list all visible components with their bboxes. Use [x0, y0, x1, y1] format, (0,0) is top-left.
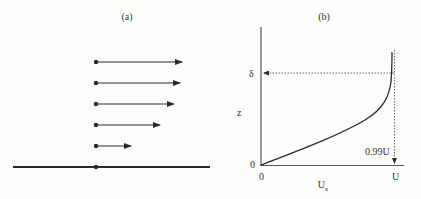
- ux-axis-label: Ux: [318, 179, 329, 193]
- wall-point: [94, 165, 98, 169]
- z-origin-label: 0: [250, 159, 255, 170]
- boundary-layer-diagram: (a) (b): [0, 0, 421, 199]
- u-end-label: U: [392, 171, 400, 182]
- velocity-arrow: [94, 144, 131, 148]
- velocity-arrow: [94, 81, 180, 85]
- delta-label: δ: [249, 68, 254, 79]
- velocity-arrow: [94, 123, 160, 127]
- velocity-arrow: [94, 102, 174, 106]
- z-axis-label: z: [237, 107, 242, 118]
- annotation-099u: 0.99U: [365, 146, 391, 157]
- panel-b: (b) δ z 0 0 U 0.99U Ux: [237, 11, 404, 193]
- panel-b-label: (b): [318, 11, 330, 23]
- panel-a-label: (a): [121, 11, 132, 23]
- ux-origin-label: 0: [259, 171, 264, 182]
- panel-a: (a): [13, 11, 210, 169]
- velocity-arrow: [94, 60, 182, 64]
